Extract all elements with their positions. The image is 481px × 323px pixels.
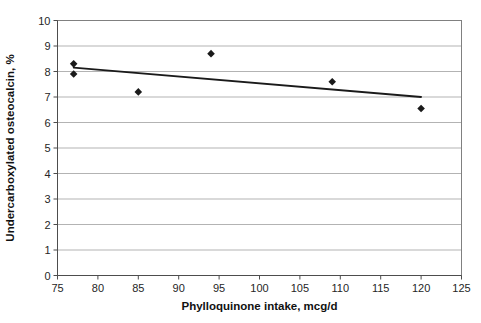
x-axis-tick-label: 95 [213,282,225,294]
x-axis-tick-label: 110 [332,282,350,294]
x-axis-tick-label: 115 [372,282,390,294]
chart-canvas: 0123456789107580859095100105110115120125… [0,0,481,323]
x-axis-tick-label: 125 [452,282,470,294]
x-axis-tick-label: 90 [173,282,185,294]
x-axis-tick-label: 75 [51,282,63,294]
y-axis-tick-label: 4 [44,168,50,180]
x-axis-tick-label: 120 [412,282,430,294]
y-axis-tick-label: 8 [44,66,50,78]
y-axis-tick-label: 6 [44,117,50,129]
scatter-plot-figure: 0123456789107580859095100105110115120125… [0,0,481,323]
y-axis-tick-label: 9 [44,40,50,52]
figure-caption [0,311,481,323]
y-axis-tick-label: 5 [44,142,50,154]
y-axis-tick-label: 10 [38,15,50,27]
y-axis-tick-label: 7 [44,91,50,103]
y-axis-tick-label: 3 [44,193,50,205]
y-axis-tick-label: 0 [44,270,50,282]
y-axis-tick-label: 2 [44,219,50,231]
x-axis-tick-label: 85 [132,282,144,294]
y-axis-title: Undercarboxylated osteocalcin, % [4,54,16,241]
x-axis-tick-label: 100 [250,282,268,294]
x-axis-tick-label: 80 [92,282,104,294]
y-axis-tick-label: 1 [44,244,50,256]
x-axis-tick-label: 105 [291,282,309,294]
